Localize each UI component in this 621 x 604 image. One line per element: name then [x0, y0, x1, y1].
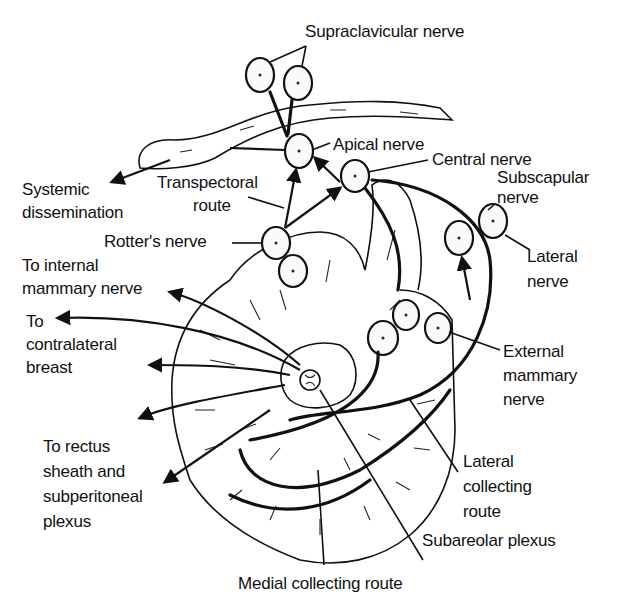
- breast-lymphatic-diagram: Supraclavicular nerve Apical nerve Centr…: [0, 0, 621, 604]
- label-rectus-line4: plexus: [43, 512, 91, 531]
- label-internal-mammary-line2: mammary nerve: [22, 279, 142, 298]
- label-subscapular-nerve-line1: Subscapular: [497, 168, 589, 187]
- label-systemic-line1: Systemic: [22, 180, 89, 199]
- label-transpectoral-line1: Transpectoral: [157, 173, 258, 192]
- label-systemic-line2: dissemination: [22, 203, 123, 222]
- label-apical-nerve: Apical nerve: [333, 135, 424, 154]
- label-internal-mammary-line1: To internal: [22, 256, 98, 275]
- label-rectus-line3: subperitoneal: [43, 487, 142, 506]
- label-lateral-nerve-line1: Lateral: [527, 247, 578, 266]
- label-central-nerve: Central nerve: [432, 150, 531, 169]
- label-lateral-nerve-line2: nerve: [527, 272, 569, 291]
- label-external-mammary-line1: External: [503, 342, 564, 361]
- label-lateral-collecting-line2: collecting: [463, 477, 532, 496]
- label-lateral-collecting-line1: Lateral: [463, 452, 514, 471]
- label-rectus-line2: sheath and: [43, 462, 125, 481]
- drainage-routes: [58, 92, 491, 509]
- label-contralateral-line2: contralateral: [26, 335, 117, 354]
- label-external-mammary-line3: nerve: [503, 390, 545, 409]
- diagram-drawing: [0, 0, 621, 604]
- label-transpectoral-line2: route: [193, 196, 231, 215]
- label-rotters-nerve: Rotter's nerve: [104, 232, 207, 251]
- label-external-mammary-line2: mammary: [503, 366, 577, 385]
- label-subscapular-nerve-line2: nerve: [497, 188, 539, 207]
- label-lateral-collecting-line3: route: [463, 502, 501, 521]
- label-medial-collecting-route: Medial collecting route: [238, 574, 403, 593]
- label-contralateral-line1: To: [26, 312, 44, 331]
- label-supraclavicular-nerve: Supraclavicular nerve: [305, 22, 464, 41]
- label-subareolar-plexus: Subareolar plexus: [422, 531, 556, 550]
- label-contralateral-line3: breast: [26, 358, 72, 377]
- label-rectus-line1: To rectus: [43, 437, 110, 456]
